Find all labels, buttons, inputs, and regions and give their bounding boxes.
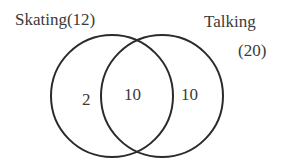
skating-only-count: 2 (82, 91, 91, 108)
talking-set-label: Talking (204, 13, 256, 30)
talking-only-count: 10 (181, 86, 198, 103)
both-count: 10 (124, 86, 141, 103)
skating-set-label: Skating(12) (15, 11, 95, 28)
talking-circle (101, 35, 223, 157)
venn-diagram: Skating(12) Talking (20) 2 10 10 (0, 0, 286, 167)
skating-circle (51, 35, 173, 157)
talking-total-label: (20) (238, 42, 266, 59)
